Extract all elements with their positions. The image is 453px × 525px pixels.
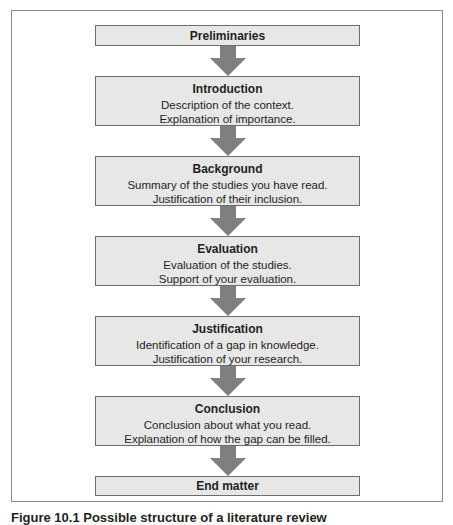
arrow-down-icon — [210, 446, 246, 476]
step-line: Explanation of importance. — [96, 113, 359, 127]
arrow-down-icon — [210, 206, 246, 236]
arrow-down-icon — [210, 46, 246, 76]
step-title: Background — [96, 162, 359, 176]
step-introduction: Introduction Description of the context.… — [95, 76, 360, 126]
step-background: Background Summary of the studies you ha… — [95, 156, 360, 206]
step-line: Conclusion about what you read. — [96, 419, 359, 433]
step-line: Description of the context. — [96, 99, 359, 113]
step-justification: Justification Identification of a gap in… — [95, 316, 360, 366]
step-line: Identification of a gap in knowledge. — [96, 339, 359, 353]
step-title: Justification — [96, 322, 359, 336]
step-title: End matter — [196, 479, 259, 493]
arrow-down-icon — [210, 286, 246, 316]
step-title: Preliminaries — [190, 29, 265, 43]
arrow-down-icon — [210, 126, 246, 156]
step-line: Explanation of how the gap can be filled… — [96, 433, 359, 447]
step-preliminaries: Preliminaries — [95, 25, 360, 46]
step-title: Evaluation — [96, 242, 359, 256]
step-line: Evaluation of the studies. — [96, 259, 359, 273]
step-conclusion: Conclusion Conclusion about what you rea… — [95, 396, 360, 446]
arrow-down-icon — [210, 366, 246, 396]
step-line: Summary of the studies you have read. — [96, 179, 359, 193]
step-line: Justification of their inclusion. — [96, 193, 359, 207]
figure-caption: Figure 10.1 Possible structure of a lite… — [11, 510, 327, 525]
step-title: Conclusion — [96, 402, 359, 416]
step-line: Support of your evaluation. — [96, 273, 359, 287]
step-line: Justification of your research. — [96, 353, 359, 367]
step-evaluation: Evaluation Evaluation of the studies. Su… — [95, 236, 360, 286]
step-end-matter: End matter — [95, 476, 360, 496]
step-title: Introduction — [96, 82, 359, 96]
